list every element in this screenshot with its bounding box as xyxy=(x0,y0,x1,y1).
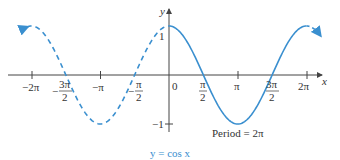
svg-text:π: π xyxy=(136,78,142,90)
x-tick-label-neg-pi: −π xyxy=(92,81,104,93)
x-axis-label: x xyxy=(321,75,327,87)
svg-text:−: − xyxy=(128,85,134,97)
period-annotation: Period = 2π xyxy=(212,127,264,139)
svg-text:π: π xyxy=(200,78,206,90)
y-tick-label-1: 1 xyxy=(159,30,165,42)
y-axis-label: y xyxy=(159,5,165,17)
svg-text:3π: 3π xyxy=(266,78,278,90)
x-tick-label-neg-3pi-2: − 3π 2 xyxy=(52,78,72,103)
svg-text:2: 2 xyxy=(269,91,275,103)
svg-text:3π: 3π xyxy=(59,78,71,90)
x-tick-label-3pi-2: 3π 2 xyxy=(266,78,279,103)
x-tick-label-pi: π xyxy=(234,80,240,92)
x-tick-label-zero: 0 xyxy=(172,80,178,92)
svg-text:−: − xyxy=(52,85,58,97)
x-tick-label-neg-pi-2: − π 2 xyxy=(128,78,143,103)
svg-text:2: 2 xyxy=(200,91,206,103)
svg-text:2: 2 xyxy=(62,91,68,103)
svg-text:2: 2 xyxy=(136,91,142,103)
cosine-chart: y x 1 −1 −2π − 3π 2 −π − π 2 0 π 2 π 3π … xyxy=(0,0,340,160)
chart-caption: y = cos x xyxy=(150,147,191,159)
y-tick-label-neg1: −1 xyxy=(152,118,164,130)
x-tick-label-neg-2pi: −2π xyxy=(22,81,40,93)
cosine-curve-dashed-right xyxy=(307,26,321,35)
x-tick-label-2pi: 2π xyxy=(298,80,310,92)
